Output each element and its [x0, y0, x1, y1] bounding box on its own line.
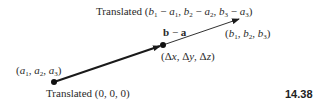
vector-label: b − a	[163, 27, 186, 38]
top-translated-label: Translated (b1 − a1, b2 − a2, b3 − a3)	[96, 6, 252, 17]
mid-dot	[160, 42, 166, 48]
translated-word: Translated	[96, 5, 142, 17]
thick-arrow	[54, 46, 160, 82]
bottom-translated-label: Translated (0, 0, 0)	[46, 88, 130, 99]
origin-dot	[51, 79, 57, 85]
endpoint-b-label: (b1, b2, b3)	[225, 28, 270, 39]
figure-number: 14.38	[285, 88, 313, 100]
delta-label: (Δx, Δy, Δz)	[161, 51, 215, 62]
start-point-a-label: (a1, a2, a3)	[16, 65, 61, 76]
